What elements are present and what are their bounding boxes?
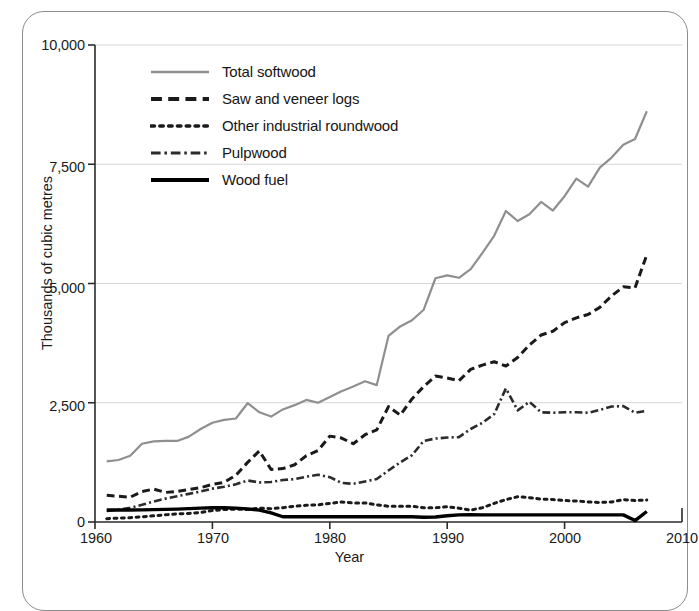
legend-item-other-industrial-roundwood: Other industrial roundwood (150, 112, 480, 139)
x-axis-title: Year (0, 549, 699, 565)
legend-swatch-icon (150, 92, 210, 106)
legend-item-label: Other industrial roundwood (222, 117, 398, 134)
chart-legend: Total softwoodSaw and veneer logsOther i… (150, 58, 480, 193)
x-tick-label-1960: 1960 (66, 530, 126, 546)
x-tick-label-1990: 1990 (418, 530, 478, 546)
y-tick-label-10000: 10,000 (10, 37, 85, 53)
y-tick-label-0: 0 (10, 514, 85, 530)
legend-swatch-icon (150, 173, 210, 187)
legend-item-saw-and-veneer-logs: Saw and veneer logs (150, 85, 480, 112)
y-axis-title: Thousands of cubic metres (39, 153, 55, 373)
legend-item-label: Total softwood (222, 63, 316, 80)
x-tick-label-2010: 2010 (652, 530, 699, 546)
legend-item-wood-fuel: Wood fuel (150, 166, 480, 193)
legend-item-pulpwood: Pulpwood (150, 139, 480, 166)
x-tick-label-1980: 1980 (300, 530, 360, 546)
legend-item-total-softwood: Total softwood (150, 58, 480, 85)
legend-item-label: Wood fuel (222, 171, 288, 188)
series-line-saw-and-veneer-logs (107, 255, 647, 497)
y-tick-label-2500: 2,500 (10, 398, 85, 414)
legend-item-label: Pulpwood (222, 144, 287, 161)
x-tick-label-2000: 2000 (535, 530, 595, 546)
legend-swatch-icon (150, 146, 210, 160)
legend-swatch-icon (150, 119, 210, 133)
legend-swatch-icon (150, 65, 210, 79)
series-line-pulpwood (107, 388, 647, 511)
x-tick-label-1970: 1970 (183, 530, 243, 546)
legend-item-label: Saw and veneer logs (222, 90, 359, 107)
